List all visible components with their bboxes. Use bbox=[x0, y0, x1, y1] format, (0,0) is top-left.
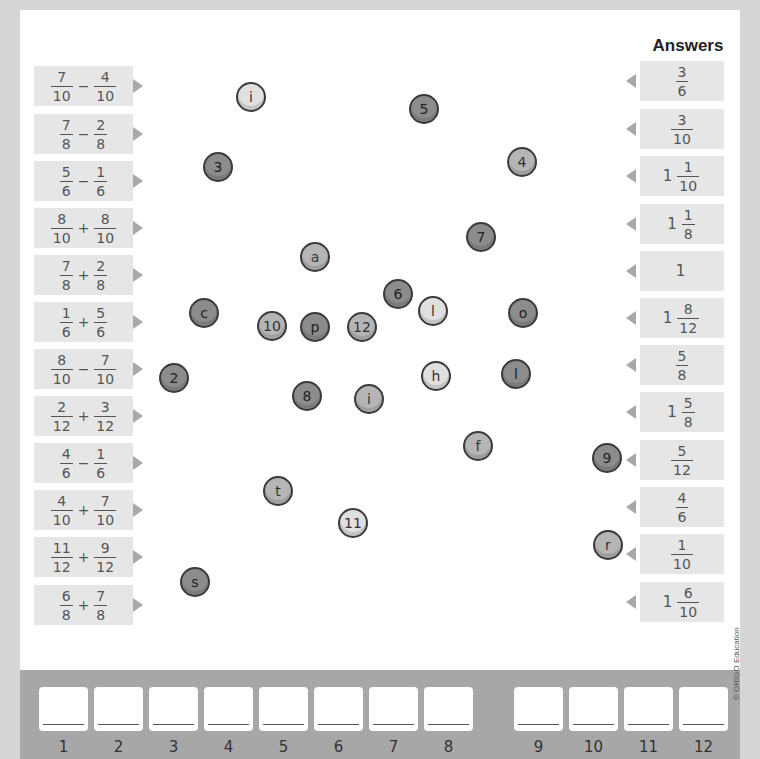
letter-dot[interactable]: s bbox=[180, 567, 210, 597]
denominator: 10 bbox=[94, 86, 116, 103]
answer-slot-input[interactable] bbox=[569, 687, 618, 731]
letter-dot[interactable]: 8 bbox=[292, 381, 322, 411]
fraction: 56 bbox=[60, 165, 73, 198]
fraction: 46 bbox=[60, 447, 73, 480]
letter-dot[interactable]: i bbox=[236, 82, 266, 112]
answer-slot-input[interactable] bbox=[624, 687, 673, 731]
question-box: 212+312 bbox=[34, 396, 133, 436]
letter-dot[interactable]: p bbox=[300, 312, 330, 342]
arrow-right-icon bbox=[133, 221, 143, 235]
answers-heading: Answers bbox=[643, 36, 733, 56]
letter-dot[interactable]: a bbox=[300, 242, 330, 272]
arrow-right-icon bbox=[133, 362, 143, 376]
operator: + bbox=[78, 549, 90, 565]
letter-dot[interactable]: o bbox=[508, 298, 538, 328]
slot-number: 1 bbox=[39, 738, 88, 756]
slot-number: 10 bbox=[569, 738, 618, 756]
slot-number: 11 bbox=[624, 738, 673, 756]
letter-dot[interactable]: 7 bbox=[466, 222, 496, 252]
arrow-left-icon bbox=[626, 122, 636, 136]
fraction: 78 bbox=[60, 118, 73, 151]
letter-dot[interactable]: 10 bbox=[257, 311, 287, 341]
numerator: 3 bbox=[99, 400, 112, 416]
denominator: 12 bbox=[677, 318, 699, 335]
fraction: 610 bbox=[677, 586, 699, 619]
write-line bbox=[208, 724, 249, 726]
fraction: 810 bbox=[51, 353, 73, 386]
whole-number: 1 bbox=[663, 167, 673, 185]
letter-dot[interactable]: 12 bbox=[347, 312, 377, 342]
answer-box: 158 bbox=[640, 392, 724, 432]
denominator: 10 bbox=[51, 86, 73, 103]
arrow-left-icon bbox=[626, 453, 636, 467]
question-box: 710−410 bbox=[34, 66, 133, 106]
answer-slot-input[interactable] bbox=[369, 687, 418, 731]
letter-dot[interactable]: 5 bbox=[409, 94, 439, 124]
write-line bbox=[573, 724, 614, 726]
operator: + bbox=[78, 597, 90, 613]
numerator: 8 bbox=[55, 212, 68, 228]
answer-slot-input[interactable] bbox=[149, 687, 198, 731]
denominator: 10 bbox=[94, 369, 116, 386]
fraction: 68 bbox=[60, 589, 73, 622]
answer-box: 1812 bbox=[640, 298, 724, 338]
numerator: 3 bbox=[676, 65, 689, 81]
letter-dot[interactable]: 6 bbox=[383, 279, 413, 309]
arrow-right-icon bbox=[133, 79, 143, 93]
fraction: 46 bbox=[676, 491, 689, 524]
answer-slot-input[interactable] bbox=[204, 687, 253, 731]
denominator: 12 bbox=[51, 557, 73, 574]
fraction: 16 bbox=[94, 447, 107, 480]
letter-dot[interactable]: h bbox=[421, 361, 451, 391]
answer-slot-input[interactable] bbox=[679, 687, 728, 731]
answer-slot-input[interactable] bbox=[94, 687, 143, 731]
operator: − bbox=[78, 78, 90, 94]
numerator: 1 bbox=[94, 165, 107, 181]
letter-dot[interactable]: f bbox=[463, 431, 493, 461]
numerator: 1 bbox=[682, 208, 695, 224]
letter-dot[interactable]: r bbox=[593, 530, 623, 560]
answer-box: 36 bbox=[640, 61, 724, 101]
answer-slot-input[interactable] bbox=[514, 687, 563, 731]
fraction: 212 bbox=[51, 400, 73, 433]
numerator: 7 bbox=[99, 494, 112, 510]
answer-box: 1 bbox=[640, 251, 724, 291]
letter-dot[interactable]: l bbox=[418, 296, 448, 326]
arrow-left-icon bbox=[626, 311, 636, 325]
question-box: 78+28 bbox=[34, 255, 133, 295]
arrow-right-icon bbox=[133, 456, 143, 470]
fraction: 58 bbox=[682, 396, 695, 429]
answer-slot-input[interactable] bbox=[424, 687, 473, 731]
denominator: 8 bbox=[682, 412, 695, 429]
answer-slot-input[interactable] bbox=[314, 687, 363, 731]
question-box: 1112+912 bbox=[34, 537, 133, 577]
numerator: 8 bbox=[682, 302, 695, 318]
fraction: 710 bbox=[51, 70, 73, 103]
answer-slot-input[interactable] bbox=[39, 687, 88, 731]
page-margin-left bbox=[0, 0, 20, 759]
answer-box: 46 bbox=[640, 487, 724, 527]
letter-dot[interactable]: t bbox=[263, 476, 293, 506]
letter-dot[interactable]: 3 bbox=[203, 152, 233, 182]
operator: − bbox=[78, 361, 90, 377]
letter-dot[interactable]: 2 bbox=[159, 363, 189, 393]
numerator: 8 bbox=[99, 212, 112, 228]
operator: − bbox=[78, 173, 90, 189]
denominator: 6 bbox=[94, 181, 107, 198]
denominator: 6 bbox=[676, 81, 689, 98]
letter-dot[interactable]: 9 bbox=[592, 443, 622, 473]
fraction: 912 bbox=[94, 541, 116, 574]
letter-dot[interactable]: 4 bbox=[507, 147, 537, 177]
denominator: 6 bbox=[60, 322, 73, 339]
fraction: 310 bbox=[671, 113, 693, 146]
letter-dot[interactable]: l bbox=[501, 359, 531, 389]
arrow-left-icon bbox=[626, 500, 636, 514]
answer-box: 1110 bbox=[640, 156, 724, 196]
letter-dot[interactable]: 11 bbox=[338, 508, 368, 538]
letter-dot[interactable]: i bbox=[354, 384, 384, 414]
answer-slot-input[interactable] bbox=[259, 687, 308, 731]
denominator: 8 bbox=[94, 275, 107, 292]
numerator: 7 bbox=[99, 353, 112, 369]
denominator: 8 bbox=[60, 275, 73, 292]
letter-dot[interactable]: c bbox=[189, 298, 219, 328]
